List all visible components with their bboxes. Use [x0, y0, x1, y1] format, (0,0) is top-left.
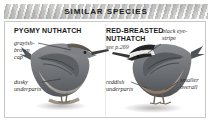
annotation-grayish-brown-cap: grayish- brown cap	[14, 39, 35, 61]
annotation-black-eye-stripe: black eye- stripe	[162, 27, 187, 41]
panel-header-band: SIMILAR SPECIES	[4, 4, 208, 19]
species-name-right: RED-BREASTED NUTHATCH	[106, 27, 163, 43]
panel-title: SIMILAR SPECIES	[4, 6, 208, 17]
species-name-left: PYGMY NUTHATCH	[14, 27, 82, 35]
annotation-reddish-underparts: reddish underparts	[106, 78, 133, 92]
annotation-dusky-underparts: dusky underparts	[14, 78, 41, 92]
annotation-smaller-overall: smaller overall	[180, 76, 199, 90]
species-comparison-card: PYGMY NUTHATCH RED-BREASTED NUTHATCH see…	[4, 21, 206, 118]
similar-species-panel: SIMILAR SPECIES	[0, 0, 212, 129]
species-page-reference[interactable]: see p.269	[106, 44, 129, 51]
